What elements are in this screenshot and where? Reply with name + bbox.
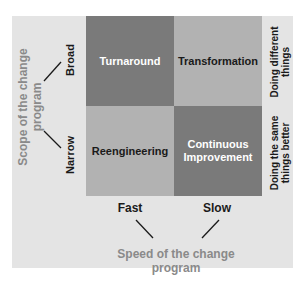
connector-lines: [0, 0, 306, 287]
narrow-connector: [44, 131, 61, 148]
broad-connector: [44, 62, 61, 81]
slow-connector: [202, 220, 219, 238]
fast-connector: [136, 220, 153, 238]
